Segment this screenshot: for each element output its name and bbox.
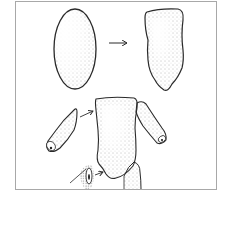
- left-leg: [70, 164, 94, 189]
- illustration: [0, 0, 231, 231]
- right-arm: [136, 102, 167, 144]
- assembly-with-limbs: [45, 97, 167, 189]
- arrow-icon: [80, 111, 93, 117]
- left-arm: [45, 109, 77, 153]
- shaped-torso: [145, 9, 183, 91]
- oval-lump: [54, 9, 96, 89]
- arrow-icon: [95, 172, 103, 175]
